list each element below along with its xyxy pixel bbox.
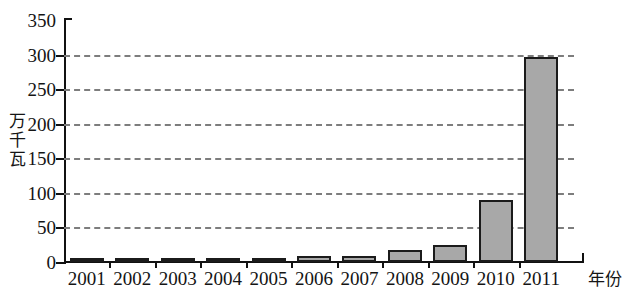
gridline — [64, 55, 574, 57]
y-axis-tick-label: 0 — [10, 253, 56, 272]
x-axis-tick — [337, 261, 339, 268]
y-axis-tick — [56, 193, 64, 195]
x-axis-tick — [519, 261, 521, 268]
gridline — [64, 158, 574, 160]
x-axis-tick — [246, 261, 248, 268]
bar — [433, 245, 467, 262]
x-axis-tick — [382, 261, 384, 268]
bar — [342, 256, 376, 262]
x-axis-end-cap — [582, 253, 584, 263]
bar — [479, 200, 513, 262]
bar — [70, 258, 104, 262]
y-axis-tick-label: 50 — [10, 218, 56, 237]
bar — [206, 258, 240, 262]
bar — [252, 258, 286, 262]
x-axis-tick-label: 2011 — [511, 268, 571, 290]
x-axis-title: 年份 — [588, 268, 622, 290]
y-axis-tick-label: 300 — [10, 46, 56, 65]
gridline — [64, 89, 574, 91]
bar — [161, 258, 195, 262]
y-axis-tick-label: 200 — [10, 115, 56, 134]
x-axis-tick — [428, 261, 430, 268]
bar — [115, 258, 149, 262]
bar — [297, 256, 331, 262]
y-axis-tick — [56, 124, 64, 126]
x-axis-tick — [109, 261, 111, 268]
x-axis-tick — [291, 261, 293, 268]
y-axis-tick — [56, 55, 64, 57]
y-axis-tick-label: 250 — [10, 80, 56, 99]
x-axis-tick — [155, 261, 157, 268]
bar — [388, 250, 422, 262]
y-axis-tick-label: 350 — [10, 11, 56, 30]
bar — [524, 57, 558, 262]
y-axis-tick — [56, 158, 64, 160]
y-axis-tick-label: 100 — [10, 184, 56, 203]
y-axis-tick-label: 150 — [10, 149, 56, 168]
x-axis-tick — [473, 261, 475, 268]
y-axis-tick — [56, 227, 64, 229]
y-axis-tick — [56, 262, 64, 264]
gridline — [64, 193, 574, 195]
bar-chart: 万 千 瓦 050100150200250300350 200120022003… — [0, 0, 632, 297]
gridline — [64, 124, 574, 126]
x-axis-tick — [200, 261, 202, 268]
plot-area — [64, 20, 564, 262]
y-axis-tick — [56, 89, 64, 91]
y-axis-tick-labels: 050100150200250300350 — [8, 20, 56, 262]
